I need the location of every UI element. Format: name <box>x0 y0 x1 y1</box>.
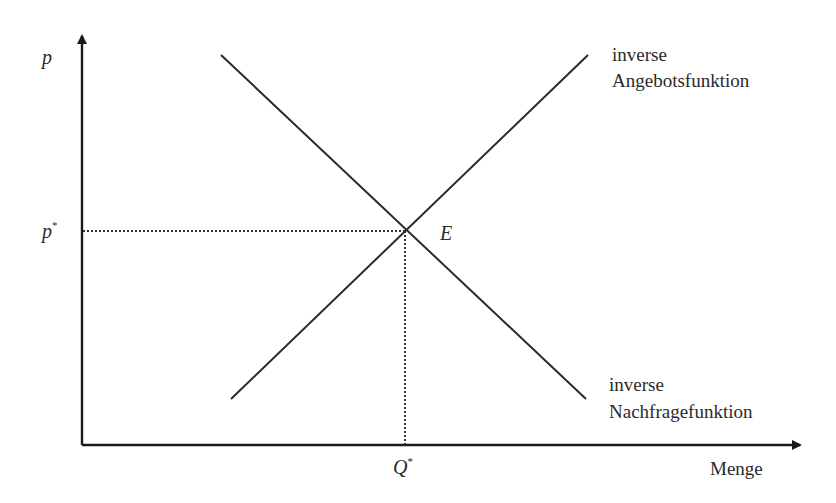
demand-curve <box>221 55 586 399</box>
equilibrium-quantity-label: Q* <box>393 455 413 478</box>
price-label-star: * <box>52 219 58 231</box>
demand-curve-label-line1: inverse <box>609 374 664 395</box>
diagram-canvas: p Menge p* Q* E inverse Angebotsfunktion… <box>0 0 836 503</box>
equilibrium-diagram: p Menge p* Q* E inverse Angebotsfunktion… <box>0 0 836 503</box>
demand-curve-label-line2: Nachfragefunktion <box>609 401 753 422</box>
equilibrium-point-label: E <box>439 222 452 244</box>
x-axis-label: Menge <box>710 458 763 479</box>
equilibrium-price-label: p* <box>40 219 58 243</box>
quantity-label-star: * <box>407 455 413 467</box>
quantity-label-base: Q <box>393 456 408 478</box>
y-axis-label: p <box>40 46 52 69</box>
supply-curve-label-line1: inverse <box>612 44 667 65</box>
supply-curve-label-line2: Angebotsfunktion <box>612 70 750 91</box>
price-label-base: p <box>40 220 52 243</box>
supply-curve <box>231 55 588 399</box>
